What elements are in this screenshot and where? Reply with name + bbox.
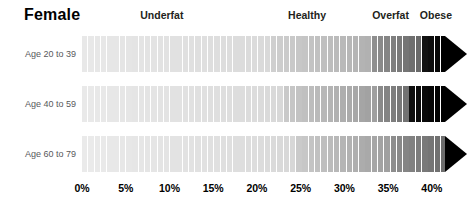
bar-segment [290, 36, 295, 72]
bar-segment [113, 136, 118, 172]
bar-arrowhead [445, 136, 467, 172]
bar-segment [340, 86, 345, 122]
axis-tick-25: 25% [290, 182, 311, 194]
bar-segment [328, 86, 333, 122]
bar-segment [296, 36, 301, 72]
bar-segment [302, 136, 307, 172]
bar-segment [428, 86, 433, 122]
bar-segment [409, 86, 414, 122]
bar-segment [391, 136, 396, 172]
bar-track [82, 86, 445, 122]
bar-segment [101, 136, 106, 172]
bar-segment [359, 136, 364, 172]
bar-segment [309, 136, 314, 172]
bar-segment [347, 36, 352, 72]
bar-segment [409, 136, 414, 172]
bar-segment [120, 136, 125, 172]
bar-segment [227, 86, 232, 122]
bar-segment [202, 36, 207, 72]
bar-segment [340, 36, 345, 72]
bar-segment [277, 86, 282, 122]
bar-segment [170, 136, 175, 172]
bar-segment [347, 136, 352, 172]
bar-segment [271, 36, 276, 72]
bar-segment [403, 136, 408, 172]
bar-segment [315, 36, 320, 72]
bar-segment [176, 136, 181, 172]
bar-segment [365, 86, 370, 122]
bar-row: Age 20 to 39 [0, 36, 468, 72]
bar-segment [183, 136, 188, 172]
bar-segment [284, 86, 289, 122]
bar-segment [302, 86, 307, 122]
bar-segment [252, 136, 257, 172]
bar-arrowhead [445, 36, 467, 72]
bar-segment [221, 86, 226, 122]
bar-segment [334, 86, 339, 122]
bar-segment [139, 86, 144, 122]
bar-segment [95, 86, 100, 122]
bar-segment [296, 136, 301, 172]
axis-tick-20: 20% [246, 182, 267, 194]
bar-segment [416, 86, 421, 122]
bar-segment [239, 136, 244, 172]
bar-segment [164, 36, 169, 72]
bar-segment [422, 86, 427, 122]
bar-segment [107, 136, 112, 172]
bar-segment [82, 36, 87, 72]
bar-segment [208, 36, 213, 72]
bar-segment [113, 36, 118, 72]
row-label-container: Age 40 to 59 [0, 86, 76, 122]
bar-segment [195, 36, 200, 72]
bar-segment [164, 86, 169, 122]
bar-segment [321, 86, 326, 122]
bar-segment [183, 36, 188, 72]
bar-segment [202, 86, 207, 122]
axis-tick-15: 15% [203, 182, 224, 194]
category-label-obese: Obese [420, 9, 452, 21]
bar-segment [384, 36, 389, 72]
bar-segment [384, 86, 389, 122]
category-label-healthy: Healthy [288, 9, 326, 21]
bar-segment [239, 36, 244, 72]
bar-segment [126, 86, 131, 122]
bar-segment [189, 136, 194, 172]
bar-segment [397, 136, 402, 172]
bar-segment [428, 36, 433, 72]
bar-segment [290, 86, 295, 122]
bar-segment [183, 86, 188, 122]
axis-tick-10: 10% [159, 182, 180, 194]
bar-segment [353, 86, 358, 122]
bar-segment [265, 86, 270, 122]
bar-segment [132, 86, 137, 122]
bar-segment [321, 36, 326, 72]
bar-segment [378, 86, 383, 122]
row-label-container: Age 20 to 39 [0, 36, 76, 72]
bar-segment [321, 136, 326, 172]
bar-segment [95, 36, 100, 72]
axis-tick-5: 5% [118, 182, 133, 194]
bar-segment [252, 36, 257, 72]
bar-segment [139, 36, 144, 72]
bar-segment [164, 136, 169, 172]
bar-segment [378, 36, 383, 72]
bar-segment [101, 86, 106, 122]
bar-segment [221, 36, 226, 72]
bar-segment [359, 36, 364, 72]
chart-header: Female UnderfatHealthyOverfatObese [0, 0, 468, 30]
bar-arrowhead [445, 86, 467, 122]
bar-segment [158, 86, 163, 122]
bar-segment [378, 136, 383, 172]
bar-segment [365, 36, 370, 72]
bar-segment [88, 36, 93, 72]
bar-segment [132, 36, 137, 72]
bar-segment [139, 136, 144, 172]
axis-tick-0: 0% [74, 182, 89, 194]
bar-segment [372, 86, 377, 122]
bar-segment [353, 36, 358, 72]
bar-segment [176, 36, 181, 72]
bar-segment [296, 86, 301, 122]
axis-tick-40: 40% [421, 182, 442, 194]
bar-segment [208, 136, 213, 172]
bar-segment [258, 136, 263, 172]
